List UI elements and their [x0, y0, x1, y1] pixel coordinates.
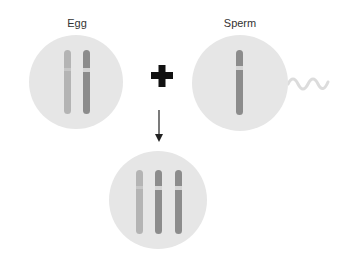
sperm-cell	[192, 35, 328, 131]
egg-chromosome-2	[83, 50, 90, 114]
egg-cell-body	[29, 35, 123, 129]
egg-label: Egg	[67, 17, 87, 29]
arrow-down-icon	[155, 110, 163, 142]
plus-icon	[151, 65, 173, 87]
zygote-cell	[109, 151, 207, 249]
zygote-chromosome-1	[136, 170, 143, 234]
sperm-chromosome	[236, 50, 243, 115]
egg-cell	[29, 35, 123, 129]
zygote-chromosome-2	[155, 170, 162, 234]
fertilization-diagram: Egg Sperm	[0, 0, 354, 265]
zygote-chromosome-3	[175, 170, 182, 234]
sperm-tail	[288, 79, 328, 89]
sperm-label: Sperm	[224, 17, 256, 29]
diagram-canvas	[0, 0, 354, 265]
egg-chromosome-1	[64, 50, 71, 114]
